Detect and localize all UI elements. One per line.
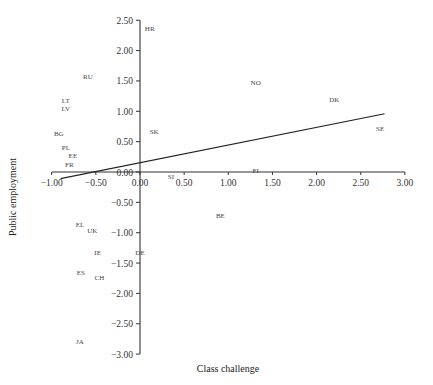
point-label-ie: IE xyxy=(94,249,101,257)
point-label-lv: LV xyxy=(61,105,70,113)
point-label-hr: HR xyxy=(145,25,155,33)
y-tick-label: 0.50 xyxy=(116,137,133,147)
point-label-fr: FR xyxy=(65,161,74,169)
y-tick-label: 1.50 xyxy=(116,76,133,86)
point-label-ee: EE xyxy=(69,152,78,160)
y-tick-label: −1.00 xyxy=(111,228,133,238)
y-tick-label: −2.50 xyxy=(111,319,133,329)
x-tick-label: 2.50 xyxy=(352,178,369,188)
point-label-ja: JA xyxy=(76,338,84,346)
point-label-sk: SK xyxy=(150,128,159,136)
point-label-ch: CH xyxy=(95,274,105,282)
point-label-dk: DK xyxy=(329,96,339,104)
point-label-fi: FI xyxy=(253,167,260,175)
point-label-de: DE xyxy=(135,249,144,257)
y-tick-label: −1.50 xyxy=(111,259,133,269)
x-tick-label: 0.50 xyxy=(176,178,193,188)
point-label-pl: PL xyxy=(62,144,70,152)
point-label-be: BE xyxy=(216,212,225,220)
x-tick-label: −1.00 xyxy=(41,178,63,188)
point-label-bg: BG xyxy=(54,130,64,138)
y-tick-label: 1.00 xyxy=(116,107,133,117)
y-tick-label: 2.00 xyxy=(116,46,133,56)
regression-line xyxy=(61,114,385,179)
point-label-no: NO xyxy=(251,79,261,87)
y-tick-label: −3.00 xyxy=(111,350,133,360)
x-tick-label: 1.00 xyxy=(220,178,237,188)
x-tick-label: 1.50 xyxy=(264,178,281,188)
point-label-el: EL xyxy=(76,221,85,229)
y-tick-label: 2.50 xyxy=(116,16,133,26)
y-tick-label: −2.00 xyxy=(111,289,133,299)
y-axis-title: Public employment xyxy=(7,158,18,236)
x-tick-label: −0.50 xyxy=(85,178,107,188)
x-tick-label: 2.00 xyxy=(308,178,325,188)
point-label-es: ES xyxy=(77,269,85,277)
y-tick-label: −0.50 xyxy=(111,198,133,208)
tick-labels: −1.00−0.500.000.501.001.502.002.503.002.… xyxy=(41,16,414,360)
x-tick-label: 3.00 xyxy=(397,178,414,188)
point-label-se: SE xyxy=(376,125,384,133)
y-tick-label: 0.00 xyxy=(116,168,133,178)
x-tick-label: 0.00 xyxy=(132,178,149,188)
x-axis-title: Class challenge xyxy=(197,363,260,374)
point-label-uk: UK xyxy=(87,227,97,235)
scatter-chart: −1.00−0.500.000.501.001.502.002.503.002.… xyxy=(0,0,433,385)
point-label-si: SI xyxy=(168,173,175,181)
point-label-ru: RU xyxy=(83,73,93,81)
